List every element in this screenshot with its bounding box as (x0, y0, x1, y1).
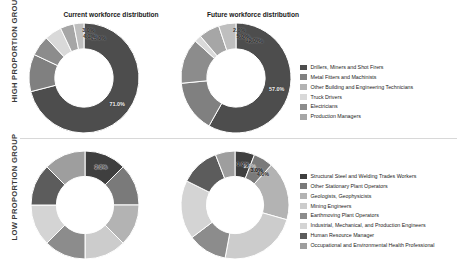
legend-swatch-icon (300, 174, 307, 179)
legend-item-label: Truck Drivers (311, 95, 342, 100)
legend-low-proportion: Structural Steel and Welding Trades Work… (300, 172, 434, 252)
donut-chart-high-future: 57.0%15.0%13.0%2.0%6.0%5.0% (180, 22, 292, 134)
legend-item-label: Other Stationary Plant Operators (311, 184, 388, 189)
legend-swatch-icon (300, 94, 307, 99)
legend-swatch-icon (300, 213, 307, 218)
legend-item-label: Production Managers (311, 114, 361, 119)
legend-swatch-icon (300, 183, 307, 188)
legend-item-label: Geologists, Geophysicists (311, 194, 372, 199)
slice-value-label: 3.0% (82, 27, 94, 33)
legend-item[interactable]: Production Managers (300, 113, 413, 121)
figure-canvas: HIGH PROPORTION GROUP LOW PROPORTION GRO… (0, 0, 463, 273)
legend-item-label: Electricians (311, 104, 338, 109)
legend-item[interactable]: Truck Drivers (300, 93, 413, 101)
legend-item[interactable]: Human Resource Manager (300, 232, 434, 240)
legend-item-label: Metal Fitters and Machinists (311, 75, 377, 80)
legend-item[interactable]: Structural Steel and Welding Trades Work… (300, 172, 434, 180)
legend-swatch-icon (300, 243, 307, 248)
legend-item[interactable]: Industrial, Mechanical, and Production E… (300, 222, 434, 230)
legend-swatch-icon (300, 104, 307, 109)
legend-item[interactable]: Electricians (300, 103, 413, 111)
legend-swatch-icon (300, 193, 307, 198)
legend-item[interactable]: Mining Engineers (300, 202, 434, 210)
slice-value-label: 2.0% (95, 164, 107, 170)
donut-svg (30, 150, 140, 260)
legend-item[interactable]: Occupational and Environmental Health Pr… (300, 242, 434, 250)
group-label-high: HIGH PROPORTION GROUP (10, 23, 19, 103)
pie-slice (225, 213, 287, 259)
slice-value-label: 4.0% (83, 33, 95, 39)
legend-high-proportion: Drillers, Miners and Shot FirersMetal Fi… (300, 63, 413, 123)
legend-swatch-icon (300, 203, 307, 208)
group-label-low: LOW PROPORTION GROUP (10, 161, 19, 241)
legend-item-label: Mining Engineers (311, 204, 352, 209)
legend-item[interactable]: Metal Fitters and Machinists (300, 73, 413, 81)
donut-chart-high-current: 71.0%11.0%6.0%5.0%4.0%3.0% (28, 22, 140, 134)
legend-item[interactable]: Other Building and Engineering Technicia… (300, 83, 413, 91)
legend-swatch-icon (300, 74, 307, 79)
legend-item-label: Other Building and Engineering Technicia… (311, 85, 414, 90)
slice-value-label: 1.0% (236, 161, 248, 167)
slice-value-label: 57.0% (269, 86, 284, 92)
legend-swatch-icon (300, 65, 307, 70)
legend-swatch-icon (300, 84, 307, 89)
section-divider (20, 138, 457, 139)
legend-item-label: Occupational and Environmental Health Pr… (311, 243, 435, 248)
legend-swatch-icon (300, 223, 307, 228)
donut-chart-low-future: 1.0%1.0%3.0%4.0%2.0%3.0%2.0%1.0% (180, 150, 290, 260)
donut-chart-low-current: 2.0%2.0%2.0%2.0%2.0%2.0%2.0%2.0% (30, 150, 140, 260)
slice-value-label: 5.0% (237, 33, 249, 39)
legend-item-label: Structural Steel and Welding Trades Work… (311, 174, 417, 179)
legend-item-label: Earthmoving Plant Operators (311, 213, 379, 218)
legend-item[interactable]: Earthmoving Plant Operators (300, 212, 434, 220)
legend-item[interactable]: Drillers, Miners and Shot Firers (300, 63, 413, 71)
legend-item[interactable]: Geologists, Geophysicists (300, 192, 434, 200)
legend-swatch-icon (300, 233, 307, 238)
legend-item-label: Drillers, Miners and Shot Firers (311, 65, 384, 70)
donut-svg (180, 150, 290, 260)
legend-item[interactable]: Other Stationary Plant Operators (300, 182, 434, 190)
slice-value-label: 71.0% (110, 101, 125, 107)
chart-title-future: Future workforce distribution (188, 11, 318, 18)
legend-item-label: Industrial, Mechanical, and Production E… (311, 223, 426, 228)
legend-item-label: Human Resource Manager (311, 233, 375, 238)
chart-title-current: Current workforce distribution (46, 11, 176, 18)
slice-value-label: 2.0% (233, 27, 245, 33)
legend-swatch-icon (300, 114, 307, 119)
